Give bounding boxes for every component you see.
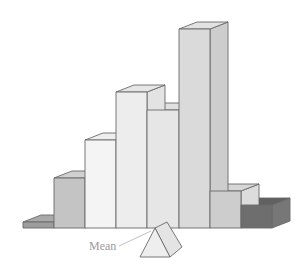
mean-pointer-line — [119, 231, 151, 246]
histogram-balance-diagram: Mean — [0, 0, 304, 267]
mean-annotation: Mean — [0, 0, 304, 267]
mean-label: Mean — [89, 239, 116, 253]
